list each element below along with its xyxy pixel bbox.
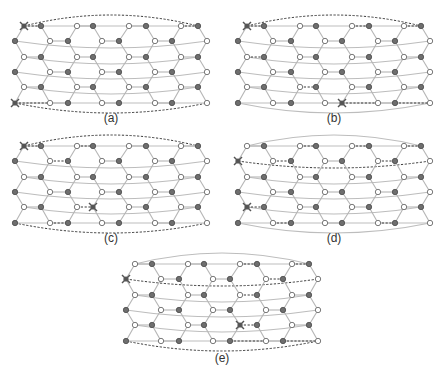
hollow-node <box>349 84 354 89</box>
dashed-wrap-string <box>238 161 430 168</box>
filled-node <box>65 220 70 225</box>
filled-node <box>254 292 259 297</box>
hollow-node <box>375 220 380 225</box>
hollow-node <box>74 54 79 59</box>
hollow-node <box>315 338 320 343</box>
wrap-edge <box>24 87 198 94</box>
hollow-node <box>297 84 302 89</box>
filled-node <box>65 158 70 163</box>
panel-b <box>235 15 432 113</box>
filled-node <box>418 54 423 59</box>
filled-node <box>169 100 174 105</box>
filled-node <box>123 338 128 343</box>
hollow-node <box>297 204 302 209</box>
filled-node <box>235 220 240 225</box>
top-arc <box>247 135 421 146</box>
hollow-node <box>99 69 104 74</box>
filled-node <box>366 174 371 179</box>
panel-d <box>234 135 433 233</box>
panel-c <box>12 135 209 233</box>
hollow-node <box>126 54 131 59</box>
hollow-node <box>21 204 26 209</box>
filled-node <box>288 189 293 194</box>
hollow-node <box>99 38 104 43</box>
filled-node <box>12 38 17 43</box>
filled-node <box>418 84 423 89</box>
defect-x-marker-icon <box>236 321 244 329</box>
hollow-node <box>401 54 406 59</box>
hollow-node <box>178 143 183 148</box>
filled-node <box>143 143 148 148</box>
hollow-node <box>74 204 79 209</box>
filled-node <box>235 69 240 74</box>
top-arc <box>135 253 309 264</box>
hollow-node <box>47 69 52 74</box>
filled-node <box>169 189 174 194</box>
hollow-node <box>152 38 157 43</box>
filled-node <box>195 54 200 59</box>
hollow-node <box>74 23 79 28</box>
filled-node <box>392 100 397 105</box>
hollow-node <box>204 38 209 43</box>
hollow-node <box>322 158 327 163</box>
filled-node <box>12 158 17 163</box>
filled-node <box>288 100 293 105</box>
filled-node <box>195 174 200 179</box>
hollow-node <box>158 338 163 343</box>
filled-node <box>38 204 43 209</box>
filled-node <box>339 69 344 74</box>
filled-node <box>313 204 318 209</box>
hollow-node <box>270 189 275 194</box>
filled-node <box>116 69 121 74</box>
filled-node <box>90 143 95 148</box>
wrap-edge <box>247 207 421 214</box>
wrap-edge <box>15 41 207 48</box>
filled-node <box>123 307 128 312</box>
hollow-node <box>244 54 249 59</box>
wrap-edge <box>24 177 198 184</box>
filled-node <box>195 23 200 28</box>
filled-node <box>143 174 148 179</box>
hollow-node <box>315 276 320 281</box>
filled-node <box>169 158 174 163</box>
filled-node <box>339 38 344 43</box>
hollow-node <box>289 322 294 327</box>
filled-node <box>143 84 148 89</box>
filled-node <box>366 204 371 209</box>
filled-node <box>143 204 148 209</box>
hollow-node <box>178 23 183 28</box>
filled-node <box>143 23 148 28</box>
caption-b: (b) <box>327 111 342 125</box>
hollow-node <box>322 100 327 105</box>
filled-node <box>261 174 266 179</box>
filled-node <box>280 338 285 343</box>
filled-node <box>201 322 206 327</box>
hollow-node <box>74 143 79 148</box>
wrap-edge <box>247 87 421 94</box>
hollow-node <box>322 220 327 225</box>
wrap-edge <box>238 192 430 199</box>
filled-node <box>38 174 43 179</box>
hollow-node <box>21 84 26 89</box>
hollow-node <box>126 204 131 209</box>
hollow-node <box>158 276 163 281</box>
wrap-edge <box>24 207 198 214</box>
hollow-node <box>427 220 432 225</box>
hollow-node <box>152 189 157 194</box>
filled-node <box>306 292 311 297</box>
hollow-node <box>185 261 190 266</box>
hollow-node <box>74 174 79 179</box>
hollow-node <box>185 292 190 297</box>
filled-node <box>90 84 95 89</box>
hollow-node <box>401 143 406 148</box>
hollow-node <box>270 38 275 43</box>
filled-node <box>288 38 293 43</box>
hollow-node <box>237 261 242 266</box>
hollow-node <box>178 54 183 59</box>
filled-node <box>116 189 121 194</box>
filled-node <box>306 322 311 327</box>
hollow-node <box>210 307 215 312</box>
filled-node <box>116 220 121 225</box>
filled-node <box>313 84 318 89</box>
filled-node <box>418 143 423 148</box>
